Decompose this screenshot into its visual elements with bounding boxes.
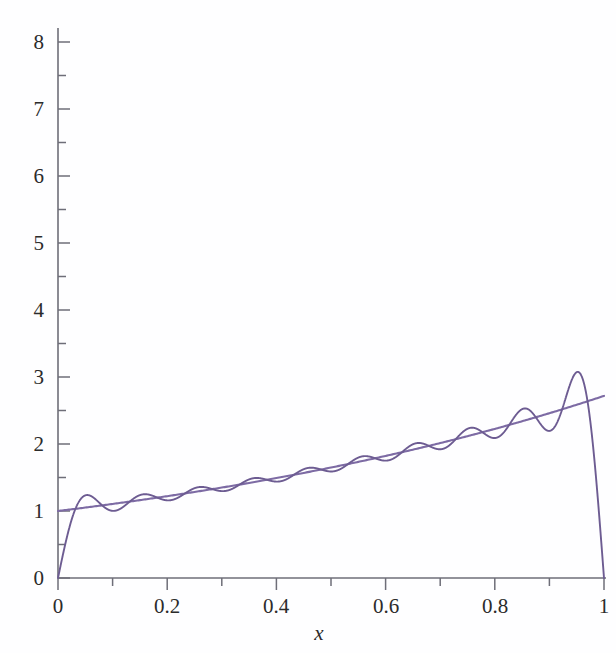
- y-tick-label-8: 8: [34, 30, 45, 54]
- y-tick-label-2: 2: [34, 432, 45, 456]
- x-tick-label-1: 0.2: [154, 594, 180, 618]
- y-tick-label-7: 7: [34, 97, 45, 121]
- plot-background: [0, 0, 616, 653]
- x-tick-label-5: 1: [599, 594, 610, 618]
- x-tick-label-4: 0.8: [482, 594, 508, 618]
- x-tick-label-2: 0.4: [263, 594, 290, 618]
- y-tick-label-1: 1: [34, 499, 45, 523]
- y-tick-label-3: 3: [34, 365, 45, 389]
- y-tick-label-0: 0: [34, 566, 45, 590]
- y-tick-label-5: 5: [34, 231, 45, 255]
- x-axis-title: x: [313, 621, 324, 645]
- x-tick-label-0: 0: [53, 594, 64, 618]
- y-tick-label-4: 4: [34, 298, 45, 322]
- y-tick-label-6: 6: [34, 164, 45, 188]
- x-tick-label-3: 0.6: [373, 594, 399, 618]
- gibbs-phenomenon-plot: 0 1 2 3 4 5 6 7 8 0 0.2: [0, 0, 616, 653]
- y-axis-tick-labels: 0 1 2 3 4 5 6 7 8: [34, 30, 45, 590]
- chart-figure: 0 1 2 3 4 5 6 7 8 0 0.2: [0, 0, 616, 653]
